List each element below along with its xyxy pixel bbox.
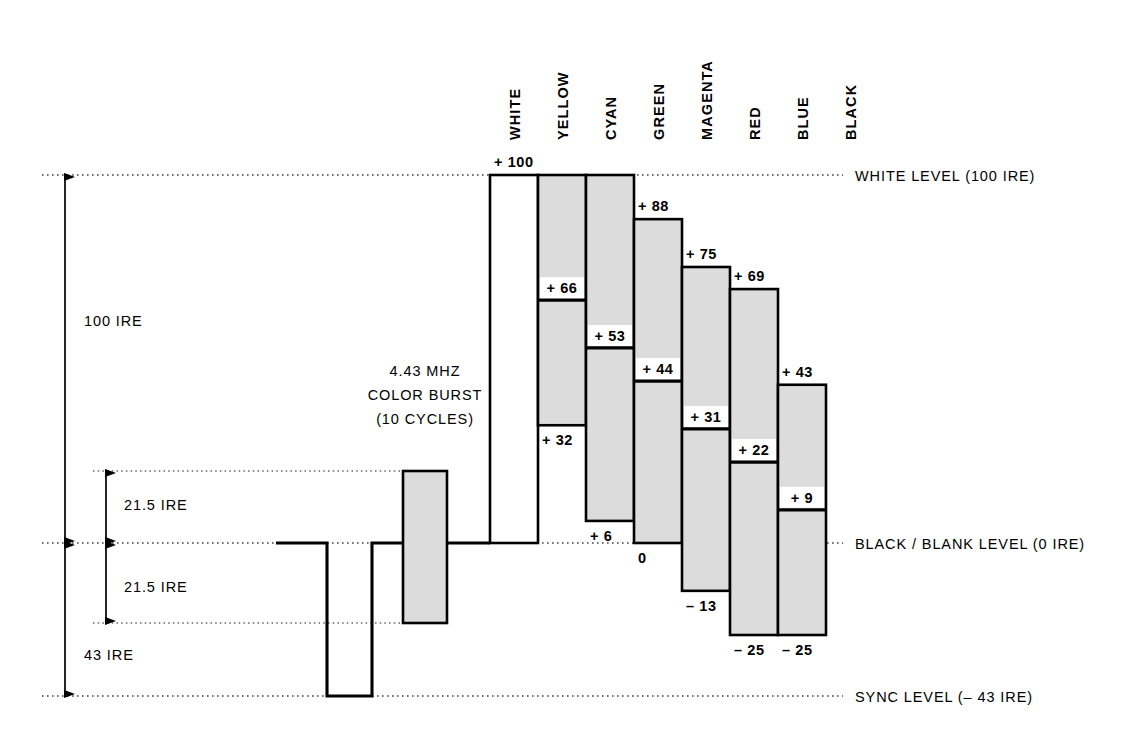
bar-luminance-label-magenta: + 31 <box>690 409 721 425</box>
burst-label-line1: 4.43 MHZ <box>390 363 461 379</box>
waveform-diagram: 100 IRE 21.5 IRE 21.5 IRE 43 IRE 4.43 MH… <box>0 0 1137 733</box>
color-bar-magenta <box>682 267 730 591</box>
bar-luminance-label-red: + 22 <box>738 442 769 458</box>
color-bar-green <box>634 219 682 543</box>
black-level-label: BLACK / BLANK LEVEL (0 IRE) <box>855 536 1085 552</box>
column-header-yellow: YELLOW <box>555 71 571 140</box>
sync-waveform-trace <box>276 543 490 696</box>
bar-trough-label-red: – 25 <box>734 642 765 658</box>
bar-luminance-label-yellow: + 66 <box>546 280 577 296</box>
bar-peak-label-red: + 69 <box>734 268 765 284</box>
bar-trough-label-cyan: + 6 <box>590 528 612 544</box>
dim-label-100ire: 100 IRE <box>84 313 143 329</box>
bar-luminance-label-green: + 44 <box>642 361 673 377</box>
bar-peak-label-blue: + 43 <box>782 364 813 380</box>
column-header-white: WHITE <box>507 88 523 140</box>
column-header-red: RED <box>747 106 763 140</box>
dimension-arrows <box>65 177 106 694</box>
color-bar-group: + 100+ 66+ 32+ 53+ 6+ 88+ 440+ 75+ 31– 1… <box>490 154 826 658</box>
bar-body <box>490 175 538 543</box>
color-bar-yellow <box>538 175 586 425</box>
color-bar-cyan <box>586 175 634 521</box>
column-header-green: GREEN <box>651 83 667 140</box>
color-burst-box <box>403 471 447 623</box>
burst-label-line3: (10 CYCLES) <box>376 411 474 427</box>
color-bar-blue <box>778 385 826 635</box>
diagram-canvas: 100 IRE 21.5 IRE 21.5 IRE 43 IRE 4.43 MH… <box>0 0 1137 733</box>
bar-peak-label-white: + 100 <box>494 154 534 170</box>
bar-peak-label-green: + 88 <box>638 198 669 214</box>
bar-trough-label-yellow: + 32 <box>542 432 573 448</box>
column-header-black: BLACK <box>843 84 859 140</box>
bar-trough-label-magenta: – 13 <box>686 598 717 614</box>
dim-label-21-5ire-lower: 21.5 IRE <box>124 579 188 595</box>
bar-trough-label-green: 0 <box>638 550 647 566</box>
dim-label-21-5ire-upper: 21.5 IRE <box>124 497 188 513</box>
white-level-label: WHITE LEVEL (100 IRE) <box>855 168 1035 184</box>
bar-peak-label-magenta: + 75 <box>686 246 717 262</box>
column-header-cyan: CYAN <box>603 96 619 140</box>
sync-level-label: SYNC LEVEL (– 43 IRE) <box>855 689 1033 705</box>
column-header-blue: BLUE <box>795 96 811 140</box>
color-bar-red <box>730 289 778 635</box>
burst-label-line2: COLOR BURST <box>368 387 483 403</box>
dim-label-43ire: 43 IRE <box>84 647 134 663</box>
bar-luminance-label-blue: + 9 <box>791 490 813 506</box>
bar-trough-label-blue: – 25 <box>782 642 813 658</box>
column-header-magenta: MAGENTA <box>699 60 715 140</box>
column-header-group: WHITEYELLOWCYANGREENMAGENTAREDBLUEBLACK <box>507 60 859 140</box>
color-bar-white <box>490 175 538 543</box>
bar-luminance-label-cyan: + 53 <box>594 328 625 344</box>
